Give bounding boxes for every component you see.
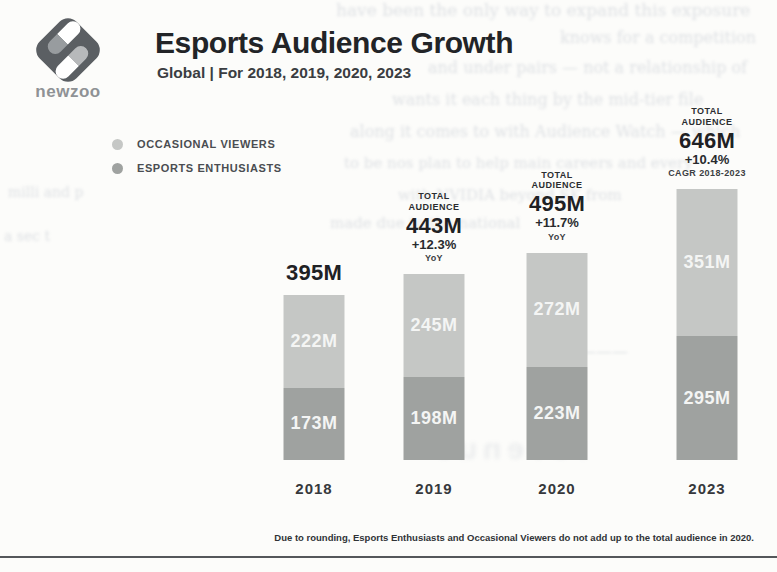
bar-group-2020: TOTAL AUDIENCE 495M +11.7% YoY 272M 223M… xyxy=(487,0,627,572)
segment-value: 198M xyxy=(410,408,457,429)
bar-group-2018: 395M 222M 173M 2018 xyxy=(244,0,384,572)
bar-annotation-2018: 395M xyxy=(244,261,384,284)
segment-esports-enthusiasts: 223M xyxy=(527,367,588,461)
bar-annotation-2023: TOTAL AUDIENCE 646M +10.4% CAGR 2018-202… xyxy=(637,106,777,179)
stacked-bar: 222M 173M xyxy=(284,295,345,461)
segment-value: 222M xyxy=(290,331,337,352)
total-value: 395M xyxy=(244,261,384,284)
total-audience-caption: TOTAL AUDIENCE xyxy=(397,191,471,212)
segment-value: 173M xyxy=(290,413,337,434)
bar-annotation-2019: TOTAL AUDIENCE 443M +12.3% YoY xyxy=(364,191,504,264)
x-axis-label-2023: 2023 xyxy=(637,480,777,497)
bar-group-2023: TOTAL AUDIENCE 646M +10.4% CAGR 2018-202… xyxy=(637,0,777,572)
stacked-bar: 272M 223M xyxy=(527,253,588,461)
segment-value: 245M xyxy=(410,315,457,336)
segment-value: 295M xyxy=(683,388,730,409)
total-value: 646M xyxy=(637,129,777,152)
segment-value: 223M xyxy=(533,403,580,424)
footnote: Due to rounding, Esports Enthusiasts and… xyxy=(274,532,754,543)
segment-occasional-viewers: 245M xyxy=(404,274,465,377)
segment-occasional-viewers: 272M xyxy=(527,253,588,367)
total-audience-caption: TOTAL AUDIENCE xyxy=(670,106,744,127)
bar-group-2019: TOTAL AUDIENCE 443M +12.3% YoY 245M 198M… xyxy=(364,0,504,572)
x-axis-label-2020: 2020 xyxy=(487,480,627,497)
total-audience-caption: TOTAL AUDIENCE xyxy=(520,170,594,191)
growth-caption: YoY xyxy=(487,233,627,243)
growth-caption: YoY xyxy=(364,254,504,264)
growth-value: +11.7% xyxy=(487,216,627,230)
x-axis-label-2018: 2018 xyxy=(244,480,384,497)
segment-esports-enthusiasts: 198M xyxy=(404,377,465,460)
stacked-bar: 351M 295M xyxy=(677,189,738,460)
segment-esports-enthusiasts: 173M xyxy=(284,388,345,461)
growth-caption: CAGR 2018-2023 xyxy=(637,169,777,179)
stacked-bar-chart: 395M 222M 173M 2018 TOTAL AUDIENCE 443M … xyxy=(0,0,777,572)
growth-value: +12.3% xyxy=(364,238,504,252)
segment-occasional-viewers: 351M xyxy=(677,189,738,336)
segment-value: 272M xyxy=(533,299,580,320)
total-value: 443M xyxy=(364,214,504,237)
x-axis-label-2019: 2019 xyxy=(364,480,504,497)
segment-esports-enthusiasts: 295M xyxy=(677,336,738,460)
scanned-report-page: have been the only way to expand this ex… xyxy=(0,0,777,572)
growth-value: +10.4% xyxy=(637,153,777,167)
stacked-bar: 245M 198M xyxy=(404,274,465,460)
page-divider-rule xyxy=(0,556,777,558)
bar-annotation-2020: TOTAL AUDIENCE 495M +11.7% YoY xyxy=(487,170,627,243)
total-value: 495M xyxy=(487,192,627,215)
segment-occasional-viewers: 222M xyxy=(284,295,345,388)
segment-value: 351M xyxy=(683,252,730,273)
